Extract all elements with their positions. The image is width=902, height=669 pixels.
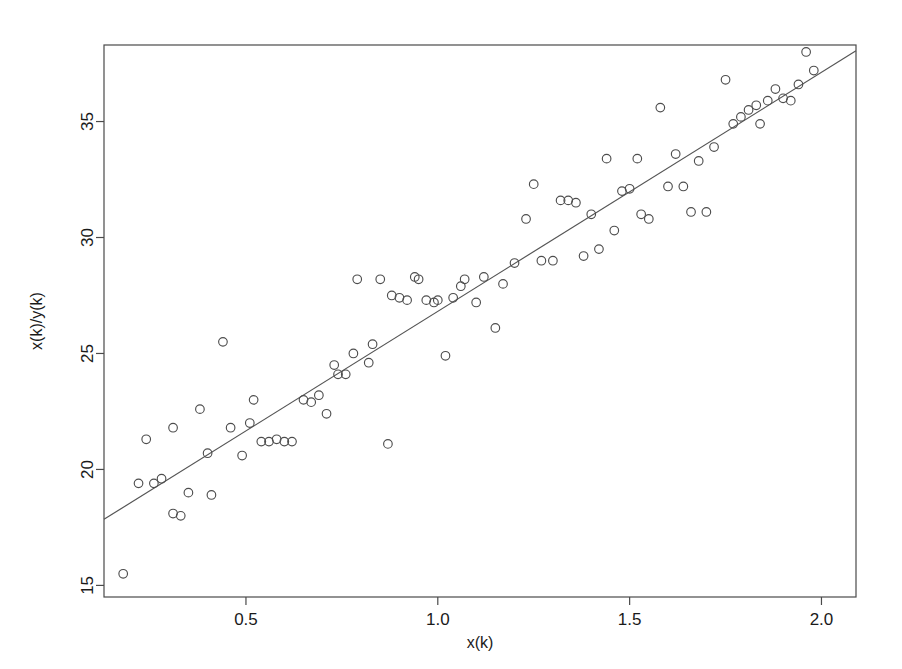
x-tick-label: 1.5 bbox=[618, 610, 642, 629]
y-tick-label: 20 bbox=[79, 460, 98, 479]
plot-canvas: 1520253035 0.51.01.52.0 x(k) x(k)/y(k) bbox=[0, 0, 902, 669]
x-tick-label: 1.0 bbox=[426, 610, 450, 629]
y-tick-label: 25 bbox=[79, 344, 98, 363]
x-tick-label: 2.0 bbox=[810, 610, 834, 629]
y-tick-label: 30 bbox=[79, 228, 98, 247]
y-axis-title: x(k)/y(k) bbox=[28, 292, 45, 350]
x-axis-title: x(k) bbox=[467, 634, 494, 651]
x-tick-label: 0.5 bbox=[234, 610, 258, 629]
y-tick-label: 15 bbox=[79, 576, 98, 595]
figure-background bbox=[0, 0, 902, 669]
y-tick-label: 35 bbox=[79, 112, 98, 131]
scatter-plot-figure: 1520253035 0.51.01.52.0 x(k) x(k)/y(k) bbox=[0, 0, 902, 669]
